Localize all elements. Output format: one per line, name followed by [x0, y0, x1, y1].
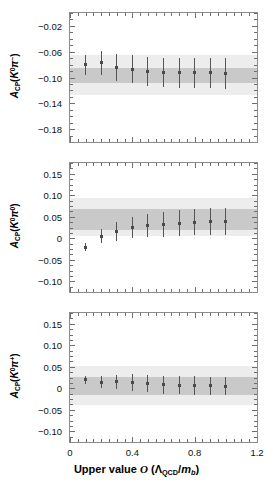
y-tick-major — [70, 345, 75, 346]
x-tick-minor — [101, 313, 102, 316]
x-tick-minor — [234, 289, 235, 292]
y-tick-minor — [254, 84, 257, 85]
y-tick-minor — [70, 233, 73, 234]
y-tick-label: 0 — [57, 233, 62, 244]
y-tick-minor — [70, 329, 73, 330]
x-tick-minor — [156, 439, 157, 442]
y-tick-major — [252, 388, 257, 389]
y-tick-major — [252, 238, 257, 239]
x-tick-minor — [164, 313, 165, 316]
x-tick-minor — [179, 439, 180, 442]
x-tick-minor — [101, 289, 102, 292]
x-axis-title: Upper value O (ΛQCD/mb) — [0, 463, 273, 477]
x-tick-major — [132, 287, 133, 292]
data-marker — [224, 72, 227, 75]
y-tick-minor — [254, 351, 257, 352]
data-marker — [209, 384, 212, 387]
y-tick-major — [252, 78, 257, 79]
y-tick-major — [70, 195, 75, 196]
x-tick-label: 1.2 — [250, 447, 263, 458]
figure-root: ACP(K0π−) −0.02−0.06−0.10−0.14−0.18 ACP(… — [0, 0, 273, 485]
y-tick-label: −0.05 — [38, 404, 62, 415]
x-tick-minor — [148, 289, 149, 292]
y-tick-major — [70, 52, 75, 53]
data-marker — [131, 226, 134, 229]
x-tick-minor — [93, 289, 94, 292]
y-tick-minor — [70, 90, 73, 91]
y-tick-minor — [70, 211, 73, 212]
y-tick-minor — [70, 32, 73, 33]
y-tick-minor — [70, 254, 73, 255]
calligraphic-o-icon: O — [140, 463, 148, 475]
y-tick-minor — [254, 372, 257, 373]
x-tick-minor — [140, 139, 141, 142]
x-tick-minor — [241, 13, 242, 16]
x-tick-minor — [125, 139, 126, 142]
data-marker — [100, 61, 103, 64]
x-tick-minor — [234, 439, 235, 442]
y-axis-title: ACP(K0π+) — [9, 325, 21, 425]
x-tick-minor — [101, 439, 102, 442]
x-tick-minor — [249, 163, 250, 166]
y-tick-minor — [70, 421, 73, 422]
y-tick-minor — [254, 39, 257, 40]
y-tick-label: −0.14 — [38, 98, 62, 109]
x-tick-minor — [125, 13, 126, 16]
x-tick-minor — [187, 289, 188, 292]
x-tick-minor — [241, 289, 242, 292]
data-marker — [193, 71, 196, 74]
x-tick-minor — [202, 139, 203, 142]
y-tick-minor — [254, 58, 257, 59]
plot-frame — [69, 162, 258, 293]
x-tick-minor — [202, 13, 203, 16]
x-tick-minor — [148, 139, 149, 142]
y-tick-minor — [254, 97, 257, 98]
y-tick-minor — [254, 318, 257, 319]
x-tick-minor — [109, 163, 110, 166]
x-tick-label: 0.4 — [126, 447, 139, 458]
y-tick-minor — [254, 399, 257, 400]
y-tick-minor — [254, 361, 257, 362]
x-tick-minor — [164, 13, 165, 16]
y-tick-minor — [254, 340, 257, 341]
x-tick-major — [195, 137, 196, 142]
y-tick-label: −0.18 — [38, 124, 62, 135]
y-tick-minor — [70, 58, 73, 59]
data-marker — [162, 223, 165, 226]
x-tick-minor — [93, 163, 94, 166]
x-tick-minor — [171, 163, 172, 166]
x-tick-minor — [226, 313, 227, 316]
y-tick-major — [252, 52, 257, 53]
y-tick-minor — [254, 244, 257, 245]
y-tick-minor — [70, 45, 73, 46]
y-tick-major — [252, 367, 257, 368]
x-tick-major — [132, 137, 133, 142]
y-tick-minor — [254, 249, 257, 250]
y-tick-minor — [70, 265, 73, 266]
x-tick-minor — [156, 163, 157, 166]
data-marker — [100, 235, 103, 238]
data-marker — [84, 63, 87, 66]
y-tick-major — [252, 26, 257, 27]
y-axis-title: ACP(K0π−) — [9, 25, 21, 125]
y-tick-minor — [254, 404, 257, 405]
x-tick-major — [195, 163, 196, 168]
y-tick-minor — [70, 356, 73, 357]
y-tick-minor — [70, 415, 73, 416]
data-marker — [193, 221, 196, 224]
lambda-symbol: Λ — [155, 463, 162, 475]
y-tick-minor — [254, 45, 257, 46]
y-tick-minor — [254, 185, 257, 186]
y-tick-major — [70, 431, 75, 432]
x-axis-title-lambda-sub: QCD — [162, 468, 178, 477]
y-tick-major — [252, 345, 257, 346]
x-tick-minor — [101, 13, 102, 16]
x-tick-minor — [171, 13, 172, 16]
x-tick-label: 0 — [67, 447, 72, 458]
data-marker — [146, 382, 149, 385]
y-tick-major — [70, 238, 75, 239]
y-tick-minor — [254, 383, 257, 384]
x-tick-minor — [179, 163, 180, 166]
y-tick-label: 0.15 — [44, 318, 63, 329]
y-tick-major — [252, 431, 257, 432]
